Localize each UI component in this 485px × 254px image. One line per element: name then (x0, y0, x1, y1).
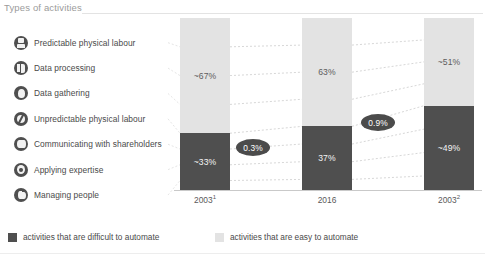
delta-bubble: 0.3% (236, 139, 270, 156)
x-tick-footnote: 2 (457, 194, 460, 200)
list-item-label: Applying expertise (34, 165, 103, 175)
delta-bubble: 0.9% (361, 114, 395, 131)
bar-group[interactable]: ~67% ~33% (180, 18, 230, 190)
bar-segment-easy[interactable]: ~51% (424, 18, 474, 106)
plot-area: ~67% ~33% 63% 37% ~51% ~49% (174, 18, 482, 190)
legend-label-easy: activities that are easy to automate (230, 232, 358, 242)
list-item-label: Data gathering (34, 88, 90, 98)
communication-icon (14, 137, 28, 151)
x-axis-line (174, 190, 482, 191)
list-item[interactable]: Predictable physical labour (14, 30, 174, 55)
delta-bubble-label: 0.3% (243, 143, 263, 153)
stacked-bar-chart: ~67% ~33% 63% 37% ~51% ~49% 20031 2016 2… (174, 18, 482, 208)
bar-segment-hard[interactable]: ~49% (424, 106, 474, 190)
legend-label-difficult: activities that are difficult to automat… (23, 232, 159, 242)
chart-header: Types of activities (4, 2, 483, 18)
legend-item-difficult: activities that are difficult to automat… (8, 232, 159, 242)
x-tick-text: 2003 (438, 195, 457, 205)
list-item[interactable]: Managing people (14, 182, 174, 207)
data-gathering-icon (14, 86, 28, 100)
bar-group[interactable]: ~51% ~49% (424, 18, 474, 190)
bar-value-label: 63% (318, 67, 336, 77)
expertise-icon (14, 163, 28, 177)
managing-people-icon (14, 188, 28, 202)
legend-swatch-easy (215, 233, 224, 242)
header-divider (82, 13, 483, 14)
list-item-label: Predictable physical labour (34, 38, 135, 48)
x-axis-tick-label: 20031 (175, 194, 235, 205)
data-processing-icon (14, 61, 28, 75)
robot-icon (14, 36, 28, 50)
x-tick-text: 2016 (318, 195, 337, 205)
list-item[interactable]: Data gathering (14, 81, 174, 106)
bar-value-label: ~51% (438, 57, 461, 67)
list-item-label: Managing people (34, 190, 99, 200)
bar-value-label: 37% (318, 153, 336, 163)
x-tick-footnote: 1 (213, 194, 216, 200)
bar-value-label: ~49% (438, 143, 461, 153)
x-tick-text: 2003 (194, 195, 213, 205)
bar-segment-easy[interactable]: ~67% (180, 18, 230, 133)
page-title: Types of activities (4, 2, 82, 13)
chart-legend: activities that are difficult to automat… (6, 232, 480, 246)
x-axis-tick-label: 2016 (297, 194, 357, 205)
bar-value-label: ~67% (194, 71, 217, 81)
bar-segment-easy[interactable]: 63% (302, 18, 352, 126)
bar-group[interactable]: 63% 37% (302, 18, 352, 190)
bar-segment-hard[interactable]: ~33% (180, 133, 230, 190)
list-item[interactable]: Unpredictable physical labour (14, 106, 174, 131)
list-item-label: Communicating with shareholders (34, 139, 162, 149)
list-item[interactable]: Data processing (14, 55, 174, 80)
list-item-label: Data processing (34, 63, 95, 73)
list-item[interactable]: Communicating with shareholders (14, 132, 174, 157)
activity-list: Predictable physical labour Data process… (14, 30, 174, 208)
delta-bubble-label: 0.9% (368, 118, 388, 128)
list-item-label: Unpredictable physical labour (34, 114, 145, 124)
bar-segment-hard[interactable]: 37% (302, 126, 352, 190)
list-item[interactable]: Applying expertise (14, 157, 174, 182)
bar-value-label: ~33% (194, 157, 217, 167)
legend-swatch-difficult (8, 233, 17, 242)
legend-item-easy: activities that are easy to automate (215, 232, 358, 242)
x-axis-tick-label: 20032 (419, 194, 479, 205)
unpredictable-labour-icon (14, 112, 28, 126)
